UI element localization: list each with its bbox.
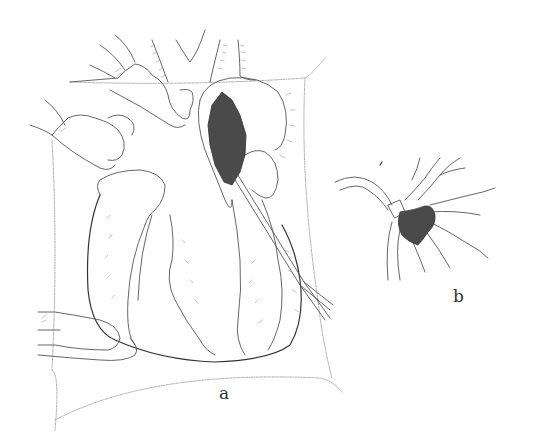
panel-a-drawing — [30, 30, 342, 430]
heart-outline — [88, 170, 302, 362]
panel-b-drawing — [335, 158, 495, 280]
retractor-hand-left — [30, 100, 134, 169]
medical-illustration: a b — [0, 0, 559, 439]
panel-label-b: b — [453, 288, 464, 305]
retractor-hand-upper — [70, 35, 193, 128]
mass-panel-b — [398, 206, 435, 245]
atrial-incision — [198, 78, 295, 208]
surgical-drape — [52, 58, 342, 430]
great-vessels — [151, 30, 255, 82]
panel-label-a: a — [219, 385, 229, 402]
